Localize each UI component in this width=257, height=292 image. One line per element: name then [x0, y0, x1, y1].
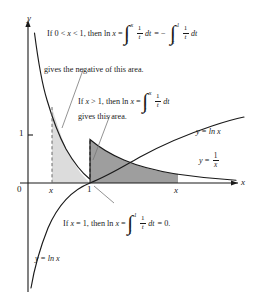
integrand-4-fraction: 1 t	[140, 215, 146, 231]
integral-3-lower-limit: 1	[144, 107, 147, 113]
pos-line1-prefix: If	[78, 97, 83, 106]
neg-line1-eq: =	[118, 29, 123, 38]
integrand-3-fraction: 1 t	[155, 93, 161, 109]
zero-mid: = 1, then ln	[76, 219, 113, 228]
annotation-zero-area: If x = 1, then ln x = ∫ 1 1 1 t dt = 0.	[63, 212, 170, 234]
integrand-1-numerator: 1	[138, 25, 142, 33]
integral-sign-2-icon: ∫ 1 x	[169, 22, 181, 44]
zero-eq: =	[121, 219, 126, 228]
recip-denominator: x	[214, 161, 217, 169]
integral-2-lower-limit: x	[172, 39, 175, 45]
pos-line1-var2: x	[130, 97, 134, 106]
integrand-4-numerator: 1	[141, 215, 145, 223]
annotation-positive-area-line2: gives this area.	[78, 113, 127, 121]
origin-label: 0	[17, 185, 22, 194]
integral-4-lower-limit: 1	[129, 229, 132, 235]
annotation-positive-area-line1: If x > 1, then ln x = ∫ x 1 1 t dt	[78, 90, 169, 112]
log-bottom-fn: ln x	[48, 254, 60, 263]
x-tick-label-right: x	[174, 186, 178, 195]
integral-sign-1-icon: ∫ x 1	[123, 22, 135, 44]
integral-3-upper-limit: x	[149, 90, 152, 96]
integral-4-upper-limit: 1	[134, 212, 137, 218]
log-label-fn: ln x	[209, 127, 221, 136]
y-tick-label-one: 1	[19, 129, 24, 138]
integrand-3-numerator: 1	[156, 93, 160, 101]
log-bottom-eq: =	[41, 254, 46, 263]
integral-1-lower-limit: 1	[126, 39, 129, 45]
integral-4-differential: dt	[148, 219, 154, 228]
integral-1-differential: dt	[145, 29, 151, 38]
leader-zero-area	[94, 186, 114, 203]
integrand-2-fraction: 1 t	[183, 25, 189, 41]
positive-area-shading	[90, 140, 178, 184]
neg-line1-prefix: If 0 <	[47, 29, 65, 38]
integrand-4-denominator: t	[142, 223, 144, 231]
recip-label-y: y	[199, 156, 203, 165]
y-axis-label: y	[27, 14, 31, 23]
recip-fraction: 1 x	[213, 152, 219, 169]
x-tick-label-one: 1	[87, 185, 92, 194]
integrand-1-fraction: 1 t	[137, 25, 143, 41]
log-curve-label-right: y = ln x	[196, 127, 221, 136]
integrand-2-denominator: t	[185, 33, 187, 41]
integrand-2-numerator: 1	[184, 25, 188, 33]
integral-sign-3-icon: ∫ x 1	[141, 90, 153, 112]
integral-1-upper-limit: x	[131, 22, 134, 28]
integral-2-upper-limit: 1	[177, 22, 180, 28]
log-bottom-y: y	[35, 254, 39, 263]
pos-line1-mid: > 1, then ln	[91, 97, 128, 106]
math-figure: y x 0 1 x 1 x y = ln x y = 1 x y = ln x …	[0, 0, 257, 292]
neg-line1-var: x	[67, 29, 71, 38]
annotation-negative-area-line2: gives the negative of this area.	[44, 66, 144, 74]
pos-line1-var: x	[85, 97, 89, 106]
integral-2-differential: dt	[191, 29, 197, 38]
log-label-eq: =	[202, 127, 207, 136]
zero-prefix: If	[63, 219, 68, 228]
zero-var2: x	[115, 219, 119, 228]
integrand-1-denominator: t	[139, 33, 141, 41]
zero-suffix: = 0.	[157, 219, 170, 228]
integral-sign-4-icon: ∫ 1 1	[126, 212, 138, 234]
reciprocal-curve-label: y = 1 x	[199, 152, 220, 169]
neg-minus-sign: = −	[154, 29, 165, 38]
integral-3-differential: dt	[163, 97, 169, 106]
log-label-y: y	[196, 127, 200, 136]
annotation-negative-area-line1: If 0 < x < 1, then ln x = ∫ x 1 1 t dt =…	[47, 22, 197, 44]
x-axis-label: x	[241, 178, 245, 187]
integrand-3-denominator: t	[157, 101, 159, 109]
neg-line1-mid: < 1, then ln	[73, 29, 110, 38]
pos-line1-eq: =	[136, 97, 141, 106]
recip-numerator: 1	[214, 152, 218, 160]
x-tick-label-left: x	[49, 186, 53, 195]
x-axis-arrowhead	[231, 180, 238, 185]
recip-label-eq: =	[205, 156, 210, 165]
neg-line1-var2: x	[112, 29, 116, 38]
zero-var: x	[70, 219, 74, 228]
log-curve-label-bottom: y = ln x	[35, 254, 60, 263]
